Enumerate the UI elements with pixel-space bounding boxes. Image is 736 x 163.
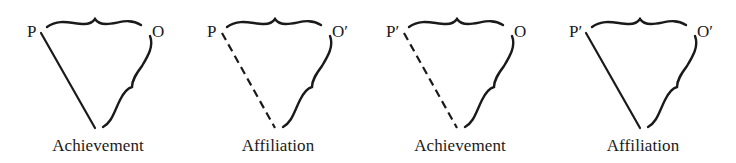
node-label-p: P [27, 23, 36, 40]
node-label-o: O [514, 23, 526, 40]
caption-achievement: Achievement [52, 137, 144, 154]
right-brace [283, 36, 331, 127]
right-brace [465, 36, 513, 127]
caption-affiliation: Affiliation [607, 137, 680, 154]
top-brace [227, 19, 321, 27]
node-label-p: P [207, 23, 216, 40]
top-brace [47, 19, 141, 27]
diagram-panel-1: P O Achievement [0, 0, 184, 163]
diagram-panel-2: P O′ Affiliation [180, 0, 364, 163]
node-label-o-prime: O′ [697, 23, 713, 40]
link-line-dashed [222, 33, 275, 128]
top-brace [409, 19, 503, 27]
link-line-solid [41, 33, 95, 128]
node-label-o-prime: O′ [332, 23, 348, 40]
top-brace [592, 19, 686, 27]
right-brace [648, 36, 696, 127]
caption-affiliation: Affiliation [242, 137, 315, 154]
caption-achievement: Achievement [414, 137, 506, 154]
diagram-panel-4: P′ O′ Affiliation [545, 0, 729, 163]
diagram-panel-3: P′ O Achievement [362, 0, 546, 163]
right-brace [103, 36, 151, 127]
node-label-p-prime: P′ [569, 23, 582, 40]
link-line-solid [586, 33, 640, 128]
node-label-p-prime: P′ [386, 23, 399, 40]
node-label-o: O [152, 23, 164, 40]
link-line-dashed [404, 33, 457, 128]
